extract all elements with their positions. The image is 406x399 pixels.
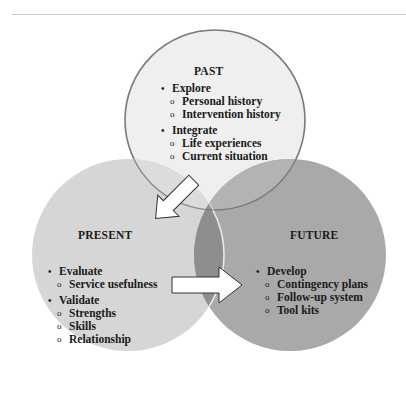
present-title: PRESENT bbox=[78, 229, 132, 241]
past-title: PAST bbox=[194, 65, 223, 77]
circle-bullet-icon: o bbox=[265, 291, 270, 304]
circle-bullet-icon: o bbox=[57, 278, 62, 291]
bullet-icon: • bbox=[48, 265, 52, 278]
sub-list-item: o Relationship bbox=[47, 333, 157, 346]
sub-list-item: o Current situation bbox=[160, 150, 281, 163]
sub-list-item: o Strengths bbox=[47, 307, 157, 320]
list-item: • Develop bbox=[255, 265, 368, 278]
sub-list-item: o Contingency plans bbox=[255, 278, 368, 291]
future-title: FUTURE bbox=[290, 229, 338, 241]
past-list: • Explore o Personal history o Intervent… bbox=[160, 82, 281, 163]
list-item: • Evaluate bbox=[47, 265, 157, 278]
sub-list-item: o Skills bbox=[47, 320, 157, 333]
present-list: • Evaluate o Service usefulness • Valida… bbox=[47, 265, 157, 346]
circle-bullet-icon: o bbox=[170, 95, 175, 108]
list-item: • Explore bbox=[160, 82, 281, 95]
circle-bullet-icon: o bbox=[57, 307, 62, 320]
sub-list-item: o Intervention history bbox=[160, 108, 281, 121]
bullet-icon: • bbox=[161, 82, 165, 95]
bullet-icon: • bbox=[161, 124, 165, 137]
future-list: • Develop o Contingency plans o Follow-u… bbox=[255, 265, 368, 317]
sub-list-item: o Service usefulness bbox=[47, 278, 157, 291]
circle-bullet-icon: o bbox=[170, 108, 175, 121]
bullet-icon: • bbox=[48, 294, 52, 307]
sub-list-item: o Tool kits bbox=[255, 304, 368, 317]
circle-bullet-icon: o bbox=[170, 150, 175, 163]
sub-list-item: o Follow-up system bbox=[255, 291, 368, 304]
circle-bullet-icon: o bbox=[265, 278, 270, 291]
sub-list-item: o Personal history bbox=[160, 95, 281, 108]
circle-bullet-icon: o bbox=[57, 320, 62, 333]
list-item: • Validate bbox=[47, 294, 157, 307]
list-item: • Integrate bbox=[160, 124, 281, 137]
circle-bullet-icon: o bbox=[57, 333, 62, 346]
bullet-icon: • bbox=[256, 265, 260, 278]
circle-bullet-icon: o bbox=[170, 137, 175, 150]
sub-list-item: o Life experiences bbox=[160, 137, 281, 150]
circle-bullet-icon: o bbox=[265, 304, 270, 317]
